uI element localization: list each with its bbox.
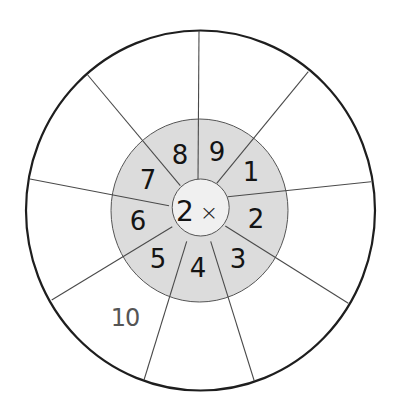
- factor-9: 9: [209, 139, 226, 165]
- factor-1: 1: [243, 159, 260, 185]
- factor-4: 4: [190, 255, 207, 281]
- factor-8: 8: [172, 142, 189, 168]
- factor-7: 7: [140, 167, 157, 193]
- factor-3: 3: [230, 246, 247, 272]
- factor-6: 6: [130, 208, 147, 234]
- center-multiplier: 2: [176, 198, 194, 226]
- factor-2: 2: [248, 206, 265, 232]
- factor-5: 5: [150, 246, 167, 272]
- answer-cell-5[interactable]: 10: [111, 306, 140, 330]
- multiplication-wheel: [0, 0, 396, 413]
- times-sign-icon: ×: [200, 202, 218, 224]
